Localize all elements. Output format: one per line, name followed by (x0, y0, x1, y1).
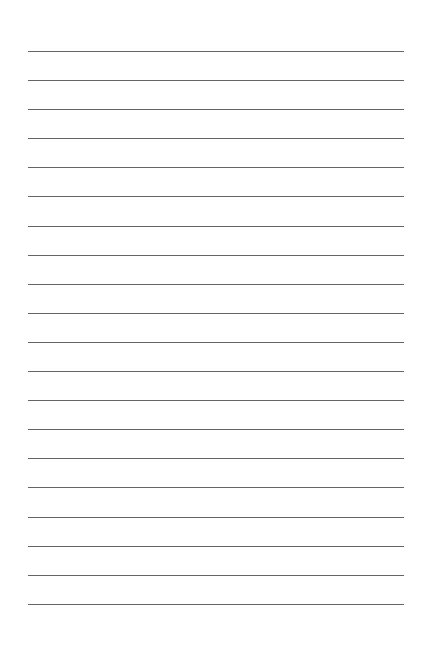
ruled-line (28, 167, 404, 168)
ruled-line (28, 517, 404, 518)
ruled-line (28, 226, 404, 227)
lined-paper-page (0, 0, 423, 651)
ruled-line (28, 429, 404, 430)
ruled-line (28, 604, 404, 605)
ruled-line (28, 342, 404, 343)
ruled-line (28, 284, 404, 285)
ruled-line (28, 400, 404, 401)
ruled-line (28, 138, 404, 139)
ruled-line (28, 109, 404, 110)
ruled-line (28, 487, 404, 488)
ruled-line (28, 546, 404, 547)
ruled-line (28, 575, 404, 576)
ruled-line (28, 196, 404, 197)
ruled-line (28, 80, 404, 81)
ruled-line (28, 255, 404, 256)
ruled-line (28, 458, 404, 459)
ruled-line (28, 313, 404, 314)
ruled-line (28, 371, 404, 372)
ruled-line (28, 51, 404, 52)
